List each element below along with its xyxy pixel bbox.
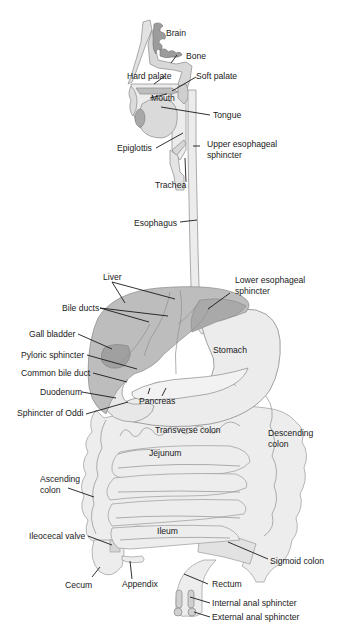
label-duodenum: Duodenum bbox=[40, 387, 82, 397]
label-tongue: Tongue bbox=[213, 110, 241, 120]
label-upper-esophageal-sphincter-1: Upper esophageal bbox=[207, 139, 277, 149]
label-sphincter-of-oddi: Sphincter of Oddi bbox=[17, 408, 83, 418]
head-section bbox=[128, 20, 192, 190]
label-external-anal-sphincter: External anal sphincter bbox=[212, 612, 300, 622]
label-pyloric-sphincter: Pyloric sphincter bbox=[21, 350, 84, 360]
label-transverse-colon: Transverse colon bbox=[155, 425, 221, 435]
rectum bbox=[176, 560, 216, 617]
label-lower-esophageal-sphincter-1: Lower esophageal bbox=[235, 275, 305, 285]
label-descending-colon-2: colon bbox=[268, 439, 289, 449]
label-rectum: Rectum bbox=[212, 579, 242, 589]
label-appendix: Appendix bbox=[122, 579, 159, 589]
label-lower-esophageal-sphincter-2: sphincter bbox=[235, 286, 270, 296]
label-common-bile-duct: Common bile duct bbox=[21, 368, 91, 378]
label-trachea: Trachea bbox=[155, 180, 186, 190]
label-pancreas: Pancreas bbox=[139, 396, 175, 406]
digestive-system-diagram: Brain Bone Hard palate Soft palate Mouth… bbox=[0, 0, 343, 631]
label-sigmoid-colon: Sigmoid colon bbox=[270, 556, 324, 566]
label-epiglottis: Epiglottis bbox=[117, 143, 152, 153]
label-cecum: Cecum bbox=[65, 580, 92, 590]
label-gall-bladder: Gall bladder bbox=[29, 329, 75, 339]
label-brain: Brain bbox=[166, 28, 186, 38]
label-hard-palate: Hard palate bbox=[127, 71, 172, 81]
label-liver: Liver bbox=[103, 272, 122, 282]
label-jejunum: Jejunum bbox=[149, 448, 181, 458]
label-upper-esophageal-sphincter-2: sphincter bbox=[207, 150, 242, 160]
label-stomach: Stomach bbox=[213, 345, 247, 355]
label-ileum: Ileum bbox=[157, 526, 178, 536]
anatomy-drawing: Brain Bone Hard palate Soft palate Mouth… bbox=[0, 0, 343, 631]
chin-jaw bbox=[135, 109, 145, 127]
label-internal-anal-sphincter: Internal anal sphincter bbox=[212, 598, 297, 608]
label-ileocecal-valve: Ileocecal valve bbox=[29, 531, 86, 541]
label-bile-ducts: Bile ducts bbox=[62, 303, 99, 313]
label-mouth: Mouth bbox=[151, 93, 175, 103]
appendix bbox=[122, 556, 144, 563]
label-esophagus: Esophagus bbox=[134, 218, 177, 228]
label-ascending-colon-1: Ascending bbox=[40, 474, 80, 484]
label-soft-palate: Soft palate bbox=[196, 71, 237, 81]
label-descending-colon-1: Descending bbox=[268, 428, 314, 438]
label-bone: Bone bbox=[186, 51, 206, 61]
label-ascending-colon-2: colon bbox=[40, 485, 61, 495]
